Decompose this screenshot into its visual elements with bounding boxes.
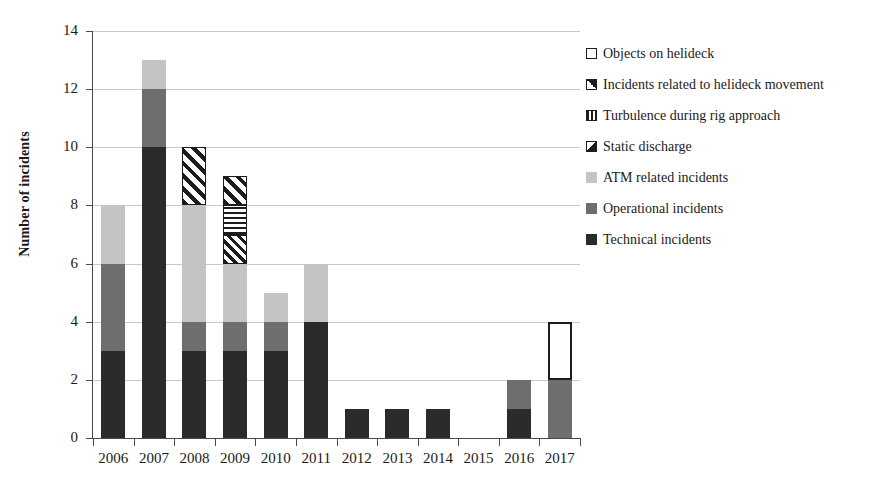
x-tick-mark bbox=[499, 439, 500, 446]
bar-segment-technical[interactable] bbox=[304, 322, 328, 438]
bar-segment-atm[interactable] bbox=[182, 205, 206, 321]
legend-label: Incidents related to helideck movement bbox=[603, 77, 824, 93]
x-tick-label: 2015 bbox=[457, 450, 501, 467]
legend-label: Objects on helideck bbox=[603, 46, 714, 62]
x-tick-mark bbox=[580, 439, 581, 446]
x-tick-mark bbox=[337, 439, 338, 446]
bar-segment-technical[interactable] bbox=[142, 147, 166, 438]
legend-swatch-technical-icon bbox=[586, 234, 597, 245]
x-tick-label: 2010 bbox=[254, 450, 298, 467]
bar-segment-technical[interactable] bbox=[385, 409, 409, 438]
bar-segment-technical[interactable] bbox=[507, 409, 531, 438]
y-tick-mark bbox=[86, 147, 93, 148]
y-tick-label: 8 bbox=[48, 197, 78, 212]
x-tick-label: 2017 bbox=[538, 450, 582, 467]
bar-segment-atm[interactable] bbox=[223, 264, 247, 322]
bar-segment-atm[interactable] bbox=[142, 60, 166, 89]
y-tick-label: 10 bbox=[48, 139, 78, 154]
bar-group[interactable] bbox=[507, 31, 531, 438]
bar-segment-operational[interactable] bbox=[142, 89, 166, 147]
y-tick-mark bbox=[86, 264, 93, 265]
legend-swatch-turbulence-icon bbox=[586, 110, 597, 121]
bar-segment-technical[interactable] bbox=[182, 351, 206, 438]
x-tick-mark bbox=[93, 439, 94, 446]
bar-segment-atm[interactable] bbox=[101, 205, 125, 263]
legend-item-static[interactable]: Static discharge bbox=[586, 131, 886, 162]
bar-segment-static[interactable] bbox=[223, 235, 247, 264]
y-tick-mark bbox=[86, 89, 93, 90]
bar-segment-atm[interactable] bbox=[304, 264, 328, 322]
bar-group[interactable] bbox=[101, 31, 125, 438]
x-tick-label: 2008 bbox=[172, 450, 216, 467]
bar-segment-technical[interactable] bbox=[264, 351, 288, 438]
bar-group[interactable] bbox=[142, 31, 166, 438]
incidents-stacked-bar-chart: 02468101214 2006200720082009201020112012… bbox=[0, 0, 896, 492]
legend-label: Technical incidents bbox=[603, 232, 711, 248]
legend-label: Turbulence during rig approach bbox=[603, 108, 780, 124]
x-tick-label: 2016 bbox=[497, 450, 541, 467]
y-tick-mark bbox=[86, 31, 93, 32]
bar-group[interactable] bbox=[548, 31, 572, 438]
legend-label: ATM related incidents bbox=[603, 170, 728, 186]
bar-segment-objects[interactable] bbox=[548, 322, 572, 380]
x-tick-mark bbox=[215, 439, 216, 446]
y-tick-mark bbox=[86, 438, 93, 439]
y-tick-label: 2 bbox=[48, 372, 78, 387]
y-tick-mark bbox=[86, 322, 93, 323]
bar-group[interactable] bbox=[304, 31, 328, 438]
bar-segment-technical[interactable] bbox=[426, 409, 450, 438]
x-tick-mark bbox=[539, 439, 540, 446]
legend-swatch-objects-icon bbox=[586, 48, 597, 59]
y-axis-line bbox=[92, 31, 93, 439]
legend-swatch-atm-icon bbox=[586, 172, 597, 183]
legend-item-operational[interactable]: Operational incidents bbox=[586, 193, 886, 224]
legend-swatch-operational-icon bbox=[586, 203, 597, 214]
bar-segment-operational[interactable] bbox=[182, 322, 206, 351]
y-tick-mark bbox=[86, 205, 93, 206]
bar-group[interactable] bbox=[385, 31, 409, 438]
bar-segment-operational[interactable] bbox=[507, 380, 531, 409]
legend-item-technical[interactable]: Technical incidents bbox=[586, 224, 886, 255]
bar-segment-movement[interactable] bbox=[182, 147, 206, 205]
chart-legend: Objects on helideckIncidents related to … bbox=[586, 38, 886, 255]
bar-segment-technical[interactable] bbox=[101, 351, 125, 438]
x-tick-mark bbox=[296, 439, 297, 446]
bar-segment-operational[interactable] bbox=[548, 380, 572, 438]
y-tick-label: 4 bbox=[48, 314, 78, 329]
x-tick-mark bbox=[134, 439, 135, 446]
legend-swatch-static-icon bbox=[586, 141, 597, 152]
bar-group[interactable] bbox=[264, 31, 288, 438]
x-tick-label: 2014 bbox=[416, 450, 460, 467]
legend-item-movement[interactable]: Incidents related to helideck movement bbox=[586, 69, 886, 100]
x-tick-label: 2006 bbox=[91, 450, 135, 467]
x-tick-label: 2011 bbox=[294, 450, 338, 467]
bar-group[interactable] bbox=[223, 31, 247, 438]
bar-segment-operational[interactable] bbox=[264, 322, 288, 351]
legend-item-atm[interactable]: ATM related incidents bbox=[586, 162, 886, 193]
bar-segment-technical[interactable] bbox=[223, 351, 247, 438]
legend-swatch-movement-icon bbox=[586, 79, 597, 90]
bar-segment-operational[interactable] bbox=[223, 322, 247, 351]
x-tick-label: 2012 bbox=[335, 450, 379, 467]
y-tick-label: 0 bbox=[48, 430, 78, 445]
x-tick-label: 2007 bbox=[132, 450, 176, 467]
bar-segment-operational[interactable] bbox=[101, 264, 125, 351]
y-tick-label: 12 bbox=[48, 81, 78, 96]
x-tick-mark bbox=[174, 439, 175, 446]
bar-segment-technical[interactable] bbox=[345, 409, 369, 438]
bar-group[interactable] bbox=[182, 31, 206, 438]
bar-segment-atm[interactable] bbox=[264, 293, 288, 322]
bar-segment-movement[interactable] bbox=[223, 176, 247, 205]
y-axis-title: Number of incidents bbox=[17, 84, 33, 304]
plot-area bbox=[93, 31, 580, 438]
y-tick-label: 6 bbox=[48, 256, 78, 271]
bar-group[interactable] bbox=[345, 31, 369, 438]
legend-item-turbulence[interactable]: Turbulence during rig approach bbox=[586, 100, 886, 131]
legend-item-objects[interactable]: Objects on helideck bbox=[586, 38, 886, 69]
bar-segment-turbulence[interactable] bbox=[223, 205, 247, 234]
bar-group[interactable] bbox=[426, 31, 450, 438]
x-tick-mark bbox=[418, 439, 419, 446]
bar-group[interactable] bbox=[467, 31, 491, 438]
x-tick-label: 2013 bbox=[375, 450, 419, 467]
y-tick-mark bbox=[86, 380, 93, 381]
